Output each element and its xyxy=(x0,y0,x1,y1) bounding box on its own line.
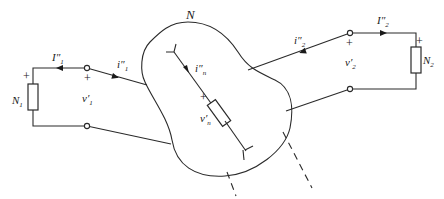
left-port-bottom-lead xyxy=(87,126,171,144)
left-inner-current-label: i″1 xyxy=(117,58,128,73)
network-label: N xyxy=(185,7,196,22)
right-terminal-plus: + xyxy=(346,36,353,50)
left-voltage-label: v′1 xyxy=(82,92,93,107)
right-port: + + N2 I″2 i″2 v′2 xyxy=(248,14,434,111)
branch-plus: + xyxy=(200,90,207,104)
right-inner-current-label: i″2 xyxy=(294,34,306,49)
branch-bottom-fork-a-icon xyxy=(243,150,244,160)
load-n1-resistor xyxy=(28,84,38,110)
left-load-plus: + xyxy=(23,69,30,83)
branch-top-fork-icon xyxy=(166,44,176,52)
branch-voltage-label: v′n xyxy=(200,112,211,127)
branch-resistor xyxy=(207,100,230,127)
branch-bottom-fork-b-icon xyxy=(245,146,253,150)
right-load-plus: + xyxy=(416,34,423,48)
right-terminal-bottom[interactable] xyxy=(347,86,352,91)
branch-upper-wire xyxy=(174,52,213,106)
right-bottom-wire xyxy=(350,73,416,89)
right-outer-current-label: I″2 xyxy=(376,14,389,29)
branch-lower-wire xyxy=(225,121,246,151)
left-terminal-top[interactable] xyxy=(84,65,89,70)
left-terminal-bottom[interactable] xyxy=(84,123,89,128)
right-outer-current-arrow-icon xyxy=(380,30,387,36)
right-voltage-label: v′2 xyxy=(345,56,356,71)
right-terminal-top[interactable] xyxy=(347,30,352,35)
load-n2-label: N2 xyxy=(422,54,434,69)
left-terminal-plus: + xyxy=(84,71,91,85)
left-top-wire xyxy=(33,68,87,84)
internal-branch: + i″n v′n xyxy=(166,44,253,160)
circuit-diagram: N + + N1 I″1 i″1 v′1 + + N2 I″2 i″2 xyxy=(0,0,444,199)
network-boundary xyxy=(142,22,292,176)
right-port-bottom-lead xyxy=(286,89,350,111)
dashed-lead-right xyxy=(283,132,312,188)
left-port: + + N1 I″1 i″1 v′1 xyxy=(11,51,171,144)
right-top-wire xyxy=(350,33,416,47)
left-bottom-wire xyxy=(33,110,87,126)
load-n2-resistor xyxy=(411,47,421,73)
branch-current-label: i″n xyxy=(195,62,207,77)
load-n1-label: N1 xyxy=(11,94,23,109)
left-outer-current-label: I″1 xyxy=(51,51,64,66)
